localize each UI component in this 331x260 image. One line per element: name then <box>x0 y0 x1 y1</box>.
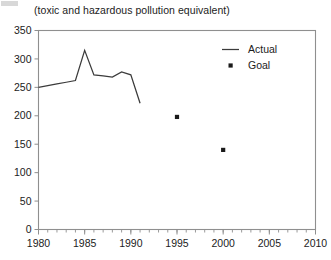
y-tick-label: 200 <box>14 109 32 121</box>
chart-container: (toxic and hazardous pollution equivalen… <box>0 0 331 260</box>
series-actual-line <box>39 50 141 103</box>
x-tick-label: 2000 <box>211 237 235 249</box>
x-tick-label: 1990 <box>119 237 143 249</box>
x-tick-label: 1985 <box>73 237 97 249</box>
y-tick-label: 50 <box>20 195 32 207</box>
y-tick-label: 150 <box>14 138 32 150</box>
y-tick-label: 350 <box>14 24 32 36</box>
y-tick-label: 0 <box>26 223 32 235</box>
y-axis-ticks <box>35 31 39 230</box>
x-tick-label: 2005 <box>258 237 282 249</box>
legend-label: Actual <box>248 43 277 55</box>
chart-plot-area: 050100150200250300350 198019851990199520… <box>0 0 331 260</box>
goal-data-point <box>221 148 225 152</box>
x-tick-label: 1980 <box>27 237 51 249</box>
series-goal <box>175 115 225 152</box>
x-axis-major-ticks <box>39 230 316 235</box>
series-actual <box>39 50 141 103</box>
chart-legend: ActualGoal <box>222 43 277 71</box>
goal-data-point <box>175 115 179 119</box>
y-axis-tick-labels: 050100150200250300350 <box>14 24 32 235</box>
legend-label: Goal <box>248 59 270 71</box>
y-tick-label: 100 <box>14 166 32 178</box>
y-tick-label: 300 <box>14 53 32 65</box>
y-tick-label: 250 <box>14 81 32 93</box>
x-axis-tick-labels: 1980198519901995200020052010 <box>27 237 328 249</box>
axis-frame <box>39 31 316 230</box>
legend-marker-dot <box>229 63 233 67</box>
x-tick-label: 1995 <box>165 237 189 249</box>
x-tick-label: 2010 <box>304 237 328 249</box>
